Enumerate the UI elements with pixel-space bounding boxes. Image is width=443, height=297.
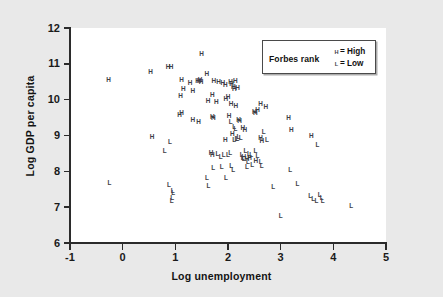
data-point-high: H <box>198 79 205 85</box>
data-point-high: H <box>178 77 185 83</box>
data-point-low: L <box>227 150 234 156</box>
data-point-low: L <box>205 183 212 189</box>
data-point-high: H <box>168 64 175 70</box>
data-point-high: H <box>234 85 241 91</box>
data-point-low: L <box>222 175 229 181</box>
data-point-low: L <box>260 129 267 135</box>
legend-marker-low-icon: L <box>333 61 340 67</box>
legend-entry-low: L= Low <box>333 59 363 68</box>
y-axis-tick-label: 7 <box>34 202 60 213</box>
data-point-low: L <box>210 165 217 171</box>
data-point-high: H <box>262 104 269 110</box>
y-axis-tick-label: 11 <box>34 58 60 69</box>
x-axis-tick-label: 5 <box>374 252 398 263</box>
data-point-high: H <box>285 115 292 121</box>
legend-label-low: = Low <box>340 59 363 68</box>
scatter-chart-figure: 6789101112-1012345 HHHHHHHHHHHHHHHHHHHHH… <box>0 0 443 297</box>
y-axis-tick-label: 8 <box>34 166 60 177</box>
data-point-low: L <box>258 163 265 169</box>
data-point-high: H <box>149 134 156 140</box>
data-point-high: H <box>232 103 239 109</box>
data-point-high: H <box>177 93 184 99</box>
data-point-low: L <box>314 142 321 148</box>
data-point-low: L <box>234 136 241 142</box>
x-axis-tick <box>175 244 177 250</box>
data-point-high: H <box>222 96 229 102</box>
y-axis-tick <box>64 63 70 65</box>
data-point-high: H <box>203 71 210 77</box>
legend-marker-high-icon: H <box>333 49 340 55</box>
data-point-high: H <box>147 69 154 75</box>
data-point-low: L <box>277 213 284 219</box>
legend-title: Forbes rank <box>269 54 319 64</box>
y-axis-title: Log GDP per capita <box>24 36 36 216</box>
data-point-high: H <box>204 98 211 104</box>
data-point-high: H <box>308 133 315 139</box>
x-axis-tick <box>280 244 282 250</box>
data-point-high: H <box>178 110 185 116</box>
y-axis-tick-label: 10 <box>34 94 60 105</box>
x-axis-tick-label: 4 <box>321 252 345 263</box>
x-axis-tick <box>333 244 335 250</box>
data-point-low: L <box>319 198 326 204</box>
data-point-high: H <box>180 86 187 92</box>
data-point-low: L <box>287 167 294 173</box>
y-axis-tick-label: 12 <box>34 23 60 34</box>
data-point-low: L <box>249 162 256 168</box>
data-point-high: H <box>105 77 112 83</box>
y-axis-tick <box>64 135 70 137</box>
data-point-high: H <box>187 80 194 86</box>
legend-entry-high: H= High <box>333 47 365 56</box>
y-axis-tick-label: 6 <box>34 238 60 249</box>
y-axis-tick-label: 9 <box>34 130 60 141</box>
data-point-low: L <box>270 184 277 190</box>
data-point-high: H <box>288 127 295 133</box>
data-point-low: L <box>231 124 238 130</box>
y-axis-tick <box>64 206 70 208</box>
data-point-low: L <box>161 148 168 154</box>
data-point-low: L <box>263 137 270 143</box>
x-axis-title: Log unemployment <box>0 270 443 282</box>
data-point-high: H <box>222 137 229 143</box>
x-axis-tick-label: 2 <box>216 252 240 263</box>
y-axis-tick <box>64 27 70 29</box>
x-axis-tick-label: 1 <box>163 252 187 263</box>
x-axis-tick-label: 0 <box>111 252 135 263</box>
data-point-high: H <box>241 127 248 133</box>
data-point-low: L <box>218 164 225 170</box>
legend-label-high: = High <box>340 47 365 56</box>
data-point-high: H <box>195 119 202 125</box>
y-axis-tick <box>64 171 70 173</box>
x-axis-tick <box>69 244 71 250</box>
x-axis-tick-label: 3 <box>269 252 293 263</box>
x-axis-tick <box>227 244 229 250</box>
data-point-high: H <box>213 99 220 105</box>
data-point-low: L <box>168 198 175 204</box>
data-point-low: L <box>106 180 113 186</box>
data-point-high: H <box>198 51 205 57</box>
data-point-high: H <box>189 88 196 94</box>
x-axis-tick <box>122 244 124 250</box>
data-point-low: L <box>230 167 237 173</box>
x-axis-tick-label: -1 <box>58 252 82 263</box>
data-point-high: H <box>254 107 261 113</box>
data-point-low: L <box>348 203 355 209</box>
data-point-low: L <box>167 139 174 145</box>
data-point-high: H <box>210 115 217 121</box>
x-axis-tick <box>385 244 387 250</box>
data-point-low: L <box>294 181 301 187</box>
y-axis-tick <box>64 99 70 101</box>
data-point-low: L <box>203 175 210 181</box>
legend: Forbes rank H= High L= Low <box>262 40 376 74</box>
